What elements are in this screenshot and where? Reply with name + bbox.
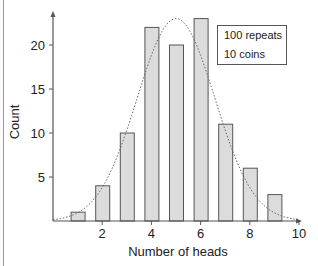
y-axis-arrow-icon [51,11,56,17]
bar-6 [194,19,208,221]
bar-9 [268,195,282,221]
x-tick-label: 6 [197,226,204,241]
y-tick-label: 20 [31,38,45,53]
y-tick-label: 10 [31,126,45,141]
x-tick-label: 8 [246,226,253,241]
y-tick-label: 15 [31,82,45,97]
bar-1 [71,212,85,221]
legend-entry-coins: 10 coins [224,48,265,60]
x-ticks: 246810 [99,221,307,241]
bar-7 [219,124,233,221]
bar-8 [243,168,257,221]
x-axis-label: Number of heads [128,244,228,259]
bar-3 [120,133,134,221]
legend-entry-repeats: 100 repeats [224,29,282,41]
bar-5 [170,45,184,221]
y-ticks: 5101520 [31,38,53,185]
bar-2 [96,186,110,221]
y-axis-label: Count [7,104,22,139]
bar-4 [145,27,159,221]
x-tick-label: 10 [292,226,306,241]
y-tick-label: 5 [38,170,45,185]
x-tick-label: 2 [99,226,106,241]
x-tick-label: 4 [148,226,155,241]
legend-box: 100 repeats 10 coins [217,25,287,65]
